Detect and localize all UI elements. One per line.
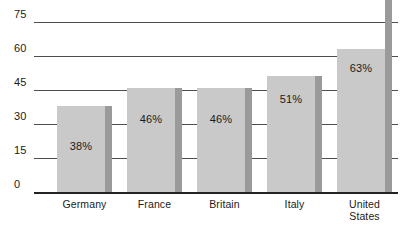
- bar-germany: 38%: [57, 106, 112, 192]
- category-label-germany-line-1: Germany: [49, 198, 120, 210]
- bar-united-states: 63%: [337, 49, 392, 192]
- bar-france-edge: [175, 88, 182, 192]
- ytick-label-0: 0: [14, 179, 34, 190]
- ytick-label-60: 60: [14, 43, 34, 54]
- bar-britain-value: 46%: [197, 114, 245, 125]
- category-label-united-states-line-1: United: [329, 198, 400, 210]
- ytick-label-30: 30: [14, 111, 34, 122]
- bar-germany-value: 38%: [57, 141, 105, 152]
- bar-chart: 75 60 45 30 15 0 38% 46% 46% 51% 63% Ger…: [0, 0, 415, 233]
- category-label-france-line-1: France: [119, 198, 190, 210]
- category-label-france: France: [119, 198, 190, 210]
- category-label-italy-line-1: Italy: [259, 198, 330, 210]
- bar-italy: 51%: [267, 76, 322, 192]
- category-label-germany: Germany: [49, 198, 120, 210]
- bar-britain-edge: [245, 88, 252, 192]
- ytick-label-45: 45: [14, 77, 34, 88]
- category-label-britain-line-1: Britain: [189, 198, 260, 210]
- ytick-label-15: 15: [14, 145, 34, 156]
- bar-united-states-edge: [385, 0, 392, 192]
- category-label-italy: Italy: [259, 198, 330, 210]
- gridline-75: [34, 22, 398, 23]
- bar-britain: 46%: [197, 88, 252, 192]
- bar-britain-body: [197, 88, 245, 192]
- bar-united-states-value: 63%: [337, 63, 385, 74]
- ytick-label-75: 75: [14, 9, 34, 20]
- category-label-united-states-line-2: States: [329, 210, 400, 222]
- bar-france: 46%: [127, 88, 182, 192]
- bar-germany-edge: [105, 106, 112, 192]
- category-label-united-states: United States: [329, 198, 400, 222]
- bar-france-body: [127, 88, 175, 192]
- bar-italy-value: 51%: [267, 94, 315, 105]
- axis-baseline: [34, 192, 398, 194]
- category-label-britain: Britain: [189, 198, 260, 210]
- bar-italy-edge: [315, 76, 322, 192]
- bar-france-value: 46%: [127, 114, 175, 125]
